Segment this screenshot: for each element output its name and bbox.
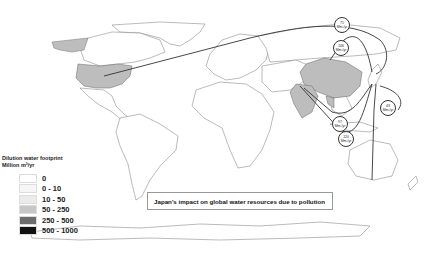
map-title: Japan's impact on global water resources… <box>154 198 325 205</box>
legend-title: Dilution water footprint Million m³/yr <box>2 155 112 168</box>
flow-bubble-australia: 43 Mm³/yr <box>380 100 396 116</box>
legend: Dilution water footprint Million m³/yr 0… <box>2 155 112 236</box>
canada <box>80 32 165 66</box>
flow-bubble-usa: 71 Mm³/yr <box>334 17 350 33</box>
legend-item: 0 <box>2 173 112 184</box>
legend-swatch <box>19 205 37 214</box>
legend-swatch <box>19 184 37 193</box>
africa <box>192 82 274 168</box>
legend-item: 250 - 500 <box>2 215 112 226</box>
legend-item: 50 - 250 <box>2 205 112 216</box>
legend-items: 0 0 - 10 10 - 50 50 - 250 250 - 500 500 … <box>2 173 112 236</box>
legend-item: 10 - 50 <box>2 194 112 205</box>
flow-bubble-sea: 97 Mm³/yr <box>332 116 348 132</box>
alaska <box>52 38 88 52</box>
thailand <box>326 96 334 108</box>
flow-unit: Mm³/yr <box>381 108 395 112</box>
legend-swatch <box>19 226 37 235</box>
legend-swatch <box>19 195 37 204</box>
russia <box>258 24 400 62</box>
flow-bubble-china: 246 Mm³/yr <box>333 40 349 56</box>
south-america <box>116 114 178 200</box>
map-title-box: Japan's impact on global water resources… <box>147 192 333 210</box>
flow-bubble-india: 120 Mm³/yr <box>338 131 354 147</box>
flow-unit: Mm³/yr <box>333 124 347 128</box>
legend-item: 500 - 1000 <box>2 226 112 237</box>
legend-item: 0 - 10 <box>2 184 112 195</box>
legend-swatch <box>19 174 37 183</box>
flow-unit: Mm³/yr <box>335 25 349 29</box>
legend-swatch <box>19 216 37 225</box>
japan <box>368 64 382 88</box>
flow-unit: Mm³/yr <box>334 48 348 52</box>
flow-unit: Mm³/yr <box>339 139 353 143</box>
